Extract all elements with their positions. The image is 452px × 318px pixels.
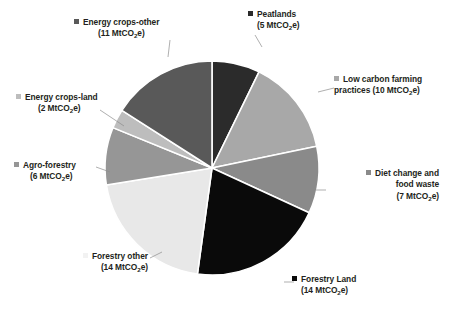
leader-line-low-carbon (318, 88, 334, 92)
legend-marker-energy-crops-land (16, 94, 21, 99)
slice-label-low-carbon-farming: Low carbon farming practices (10 MtCO2e) (334, 74, 422, 97)
legend-marker-low-carbon-farming (334, 76, 339, 81)
slice-label-forestry-land: Forestry Land (14 MtCO2e) (292, 274, 356, 297)
label-text-diet-change-2: food waste (331, 179, 439, 190)
pie-chart: Peatlands (5 MtCO2e) Low carbon farming … (0, 0, 452, 318)
label-text-peatlands: Peatlands (257, 9, 296, 19)
legend-marker-forestry-other (83, 253, 88, 258)
label-text-forestry-other: Forestry other (92, 251, 148, 261)
legend-marker-peatlands (248, 11, 253, 16)
label-value-forestry-land: (14 MtCO2e) (292, 285, 356, 296)
legend-marker-forestry-land (292, 276, 297, 281)
label-text-energy-crops-other: Energy crops-other (83, 17, 159, 27)
slice-label-peatlands: Peatlands (5 MtCO2e) (248, 9, 300, 32)
label-text-energy-crops-land: Energy crops-land (25, 92, 98, 102)
leader-line-energy-crops-other (168, 40, 170, 57)
label-text-agro-forestry: Agro-forestry (23, 160, 76, 170)
label-value-energy-crops-other: (11 MtCO2e) (74, 28, 159, 39)
slice-label-energy-crops-land: Energy crops-land (2 MtCO2e) (16, 92, 98, 115)
slice-label-energy-crops-other: Energy crops-other (11 MtCO2e) (74, 17, 159, 40)
pie-slices-group (105, 61, 319, 275)
slice-label-diet-change: Diet change and food waste (7 MtCO2e) (331, 168, 439, 202)
slice-label-forestry-other: Forestry other (14 MtCO2e) (36, 251, 148, 274)
label-value-forestry-other: (14 MtCO2e) (36, 262, 148, 273)
label-value-low-carbon-farming: practices (10 MtCO2e) (334, 85, 422, 96)
label-text-low-carbon-farming: Low carbon farming (343, 74, 422, 84)
leader-line-peatlands (255, 35, 262, 47)
label-value-energy-crops-land: (2 MtCO2e) (16, 103, 98, 114)
legend-marker-agro-forestry (14, 162, 19, 167)
label-text-diet-change: Diet change and (375, 168, 439, 178)
legend-marker-diet-change (366, 170, 371, 175)
slice-label-agro-forestry: Agro-forestry (6 MtCO2e) (14, 160, 76, 183)
label-value-diet-change: (7 MtCO2e) (331, 191, 439, 202)
legend-marker-energy-crops-other (74, 19, 79, 24)
label-value-peatlands: (5 MtCO2e) (248, 20, 300, 31)
label-text-forestry-land: Forestry Land (301, 274, 356, 284)
label-value-agro-forestry: (6 MtCO2e) (14, 171, 76, 182)
